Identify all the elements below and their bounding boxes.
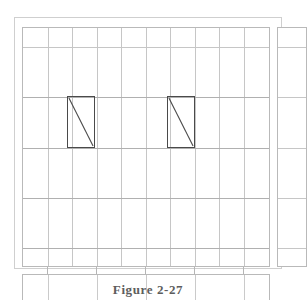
grid-hline: [23, 47, 269, 48]
figure-caption: Figure 2-27: [0, 282, 296, 298]
grid-vline: [48, 28, 49, 266]
adjacent-panel-right: [277, 27, 307, 267]
grid-vline: [146, 28, 147, 266]
rectangle-with-diagonal-left: [67, 96, 95, 148]
grid-hline: [278, 97, 306, 98]
grid-hline: [23, 248, 269, 249]
axis-tick: [243, 267, 244, 274]
main-plot-panel: [22, 27, 270, 267]
grid-vline: [244, 28, 245, 266]
grid-vline: [219, 28, 220, 266]
grid-hline: [23, 198, 269, 199]
diagonal-line-right: [168, 97, 194, 147]
grid-vline: [97, 28, 98, 266]
grid-hline: [278, 248, 306, 249]
diagonal-line-left: [68, 97, 94, 147]
axis-tick: [194, 267, 195, 274]
grid-hline: [278, 47, 306, 48]
axis-tick: [145, 267, 146, 274]
grid-vline: [195, 28, 196, 266]
grid-hline: [278, 198, 306, 199]
grid-hline: [278, 148, 306, 149]
grid-hline: [23, 148, 269, 149]
grid-hline: [23, 97, 269, 98]
axis-tick: [47, 267, 48, 274]
axis-tick: [96, 267, 97, 274]
rectangle-with-diagonal-right: [167, 96, 195, 148]
grid-vline: [121, 28, 122, 266]
